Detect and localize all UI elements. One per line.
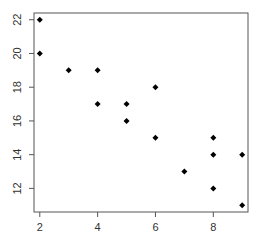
x-tick-label: 8 <box>210 221 216 233</box>
plot-box <box>34 13 248 212</box>
data-point <box>95 101 101 107</box>
data-point <box>181 169 187 175</box>
data-point <box>210 135 216 141</box>
x-tick-label: 4 <box>95 221 101 233</box>
data-point <box>124 101 130 107</box>
data-point <box>66 67 72 73</box>
y-tick-label: 20 <box>11 47 23 59</box>
y-tick-label: 18 <box>11 81 23 93</box>
data-point <box>239 152 245 158</box>
data-point <box>210 152 216 158</box>
data-point <box>152 84 158 90</box>
y-tick-label: 16 <box>11 115 23 127</box>
x-tick-label: 2 <box>37 221 43 233</box>
y-tick-label: 22 <box>11 14 23 26</box>
y-tick-label: 14 <box>11 149 23 161</box>
data-point <box>37 17 43 23</box>
x-axis: 2468 <box>37 212 217 233</box>
data-point <box>95 67 101 73</box>
y-axis: 121416182022 <box>11 14 34 195</box>
y-tick-label: 12 <box>11 182 23 194</box>
data-point <box>239 202 245 208</box>
x-tick-label: 6 <box>152 221 158 233</box>
data-point <box>37 50 43 56</box>
data-point <box>124 118 130 124</box>
data-point <box>210 185 216 191</box>
data-point <box>152 135 158 141</box>
scatter-chart: 2468 121416182022 <box>0 0 262 245</box>
data-points <box>37 17 245 209</box>
